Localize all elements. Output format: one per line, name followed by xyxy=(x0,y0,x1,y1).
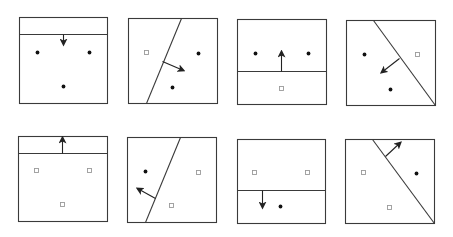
perceptron-update-diagram xyxy=(0,0,453,237)
positive-point-dot xyxy=(36,51,40,55)
positive-point-dot xyxy=(363,53,367,57)
negative-point-square xyxy=(253,171,257,175)
weight-vector-arrow-icon xyxy=(138,189,156,199)
panel-top-3 xyxy=(238,20,327,105)
positive-point-dot xyxy=(389,88,393,92)
panel-frame xyxy=(129,19,218,104)
weight-vector-arrow-icon xyxy=(163,62,184,71)
positive-point-dot xyxy=(307,52,311,56)
negative-point-square xyxy=(145,51,149,55)
positive-point-dot xyxy=(62,85,66,89)
panel-grid xyxy=(19,18,436,224)
decision-boundary-line xyxy=(146,138,181,223)
panel-frame xyxy=(20,18,108,104)
positive-point-dot xyxy=(415,172,419,176)
panel-top-4 xyxy=(347,21,436,106)
panel-bottom-1 xyxy=(19,137,108,222)
decision-boundary-line xyxy=(147,19,182,104)
panel-top-1 xyxy=(20,18,108,104)
decision-boundary-line xyxy=(373,140,435,224)
panel-frame xyxy=(347,21,436,106)
positive-point-dot xyxy=(88,51,92,55)
negative-point-square xyxy=(170,204,174,208)
weight-vector-arrow-icon xyxy=(386,143,401,157)
weight-vector-arrow-icon xyxy=(382,59,400,73)
panel-bottom-2 xyxy=(128,138,217,223)
positive-point-dot xyxy=(279,205,283,209)
negative-point-square xyxy=(388,206,392,210)
panel-bottom-4 xyxy=(346,140,435,224)
panel-bottom-3 xyxy=(238,140,326,224)
negative-point-square xyxy=(61,203,65,207)
panel-frame xyxy=(128,138,217,223)
negative-point-square xyxy=(280,87,284,91)
panel-top-2 xyxy=(129,19,218,104)
decision-boundary-line xyxy=(374,21,436,106)
panel-frame xyxy=(238,140,326,224)
negative-point-square xyxy=(416,53,420,57)
positive-point-dot xyxy=(171,86,175,90)
negative-point-square xyxy=(88,169,92,173)
negative-point-square xyxy=(306,171,310,175)
positive-point-dot xyxy=(254,52,258,56)
negative-point-square xyxy=(35,169,39,173)
negative-point-square xyxy=(362,171,366,175)
positive-point-dot xyxy=(144,170,148,174)
positive-point-dot xyxy=(197,52,201,56)
negative-point-square xyxy=(197,171,201,175)
